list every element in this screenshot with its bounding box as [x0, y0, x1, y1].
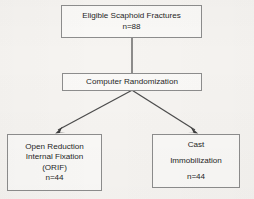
arrowhead-orif-icon — [55, 127, 65, 134]
flowchart-canvas: Eligible Scaphoid Fractures n=88 Compute… — [0, 0, 254, 199]
node-eligible-line-1: Eligible Scaphoid Fractures — [82, 11, 181, 21]
node-orif-line-2: Internal Fixation — [26, 152, 84, 162]
node-computer-randomization[interactable]: Computer Randomization — [62, 73, 202, 91]
node-eligible-line-2: n=88 — [122, 22, 140, 32]
node-open-reduction-internal-fixation[interactable]: Open Reduction Internal Fixation (ORIF) … — [7, 134, 102, 191]
connector-randomization-to-orif — [58, 91, 132, 131]
node-orif-line-1: Open Reduction — [25, 142, 84, 152]
connector-randomization-to-cast — [133, 91, 196, 131]
node-cast-immobilization[interactable]: Cast Immobilization n=44 — [152, 134, 240, 188]
node-cast-line-2: Immobilization — [170, 153, 222, 169]
arrowhead-cast-icon — [188, 127, 198, 133]
node-randomization-line-1: Computer Randomization — [86, 77, 178, 87]
node-eligible-scaphoid-fractures[interactable]: Eligible Scaphoid Fractures n=88 — [61, 5, 202, 38]
node-cast-line-1: Cast — [188, 137, 205, 153]
node-orif-line-3: (ORIF) — [42, 163, 67, 173]
node-orif-line-4: n=44 — [45, 173, 63, 183]
node-cast-line-3: n=44 — [187, 169, 205, 185]
